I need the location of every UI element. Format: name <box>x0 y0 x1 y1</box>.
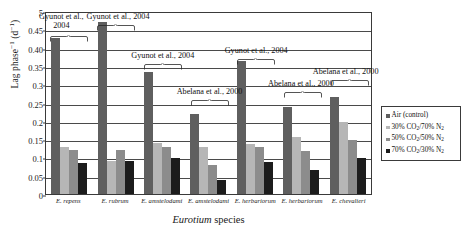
bars-layer <box>46 13 371 194</box>
bar[interactable] <box>125 161 134 194</box>
y-axis-tick-label: 0.1 <box>32 154 43 164</box>
x-axis-tick-label: E. amstelodami <box>138 197 185 204</box>
bar[interactable] <box>217 180 226 194</box>
legend-label: 50% CO2/50% N2 <box>392 134 444 144</box>
x-axis-tick-labels: E. repensE. rubrumE. amstelodamiE. amste… <box>45 197 372 204</box>
x-axis-tick-label: E. amstelodami <box>185 197 232 204</box>
bar-group <box>325 13 371 194</box>
bar[interactable] <box>190 114 199 194</box>
x-axis-tick-label: E. chevalieri <box>325 197 372 204</box>
bar-group <box>139 13 185 194</box>
y-axis-title-exp2: −1 <box>8 23 16 31</box>
bar[interactable] <box>237 61 246 194</box>
bar[interactable] <box>60 147 69 194</box>
bar[interactable] <box>107 161 116 194</box>
legend-swatch <box>386 126 390 130</box>
bar-group <box>185 13 231 194</box>
bar[interactable] <box>51 38 60 194</box>
bar[interactable] <box>69 150 78 194</box>
y-axis-title-exp1: −1 <box>8 41 16 49</box>
legend-swatch <box>386 149 390 153</box>
y-axis-tick-label: 0.3 <box>32 81 43 91</box>
bar-group <box>232 13 278 194</box>
bar[interactable] <box>301 151 310 194</box>
bar[interactable] <box>264 162 273 194</box>
y-axis-tick-label: 0.45 <box>28 26 43 36</box>
x-axis-tick-label: E. repens <box>45 197 92 204</box>
x-axis-tick-label: E. herbariorum <box>232 197 279 204</box>
x-axis-tick-label: E. herbariorum <box>279 197 326 204</box>
bar[interactable] <box>144 72 153 194</box>
y-axis-tick-label: 0.25 <box>28 100 43 110</box>
legend-item[interactable]: Air (control) <box>386 111 457 121</box>
legend-label: 30% CO2/70% N2 <box>392 123 444 133</box>
bar[interactable] <box>78 163 87 194</box>
y-axis-title-paren: ) <box>10 20 20 23</box>
x-axis-title-rest: species <box>212 214 245 225</box>
y-axis-title-text: Lag phase <box>10 49 20 89</box>
bar[interactable] <box>339 122 348 194</box>
x-axis-title: Eurotium species <box>45 214 372 225</box>
y-axis-title: Lag phase−1 (d−1) <box>8 0 20 114</box>
legend-swatch <box>386 114 390 118</box>
bar[interactable] <box>246 144 255 195</box>
y-axis-tick-label: 0.35 <box>28 63 43 73</box>
legend-item[interactable]: 70% CO2/30% N2 <box>386 146 457 156</box>
bar[interactable] <box>162 147 171 194</box>
bar[interactable] <box>171 158 180 194</box>
legend-swatch <box>386 138 390 142</box>
x-axis-tick-label: E. rubrum <box>92 197 139 204</box>
y-axis-title-units: (d <box>10 31 20 42</box>
y-axis-tick-label: 0.2 <box>32 118 43 128</box>
bar[interactable] <box>330 97 339 194</box>
plot-area: 00.050.10.150.20.250.30.350.400.455 Gyun… <box>45 12 372 195</box>
bar[interactable] <box>208 165 217 194</box>
bar[interactable] <box>310 170 319 194</box>
bar[interactable] <box>153 143 162 194</box>
legend: Air (control)30% CO2/70% N250% CO2/50% N… <box>381 106 461 161</box>
legend-label: Air (control) <box>392 111 429 121</box>
y-axis-tick-label: 0.15 <box>28 136 43 146</box>
y-axis-tick-label: 0.05 <box>28 173 43 183</box>
bar[interactable] <box>255 147 264 194</box>
x-axis-title-genus: Eurotium <box>172 214 211 225</box>
bar-group <box>278 13 324 194</box>
bar[interactable] <box>283 107 292 194</box>
legend-item[interactable]: 30% CO2/70% N2 <box>386 123 457 133</box>
legend-item[interactable]: 50% CO2/50% N2 <box>386 134 457 144</box>
y-axis-tick-label: 0.40 <box>28 45 43 55</box>
bar[interactable] <box>292 137 301 194</box>
bar[interactable] <box>98 22 107 194</box>
bar-group <box>92 13 138 194</box>
bar[interactable] <box>357 158 366 194</box>
bar[interactable] <box>348 140 357 194</box>
bar-chart-figure: Lag phase−1 (d−1) 00.050.10.150.20.250.3… <box>0 0 466 243</box>
bar[interactable] <box>199 147 208 194</box>
legend-label: 70% CO2/30% N2 <box>392 146 444 156</box>
bar[interactable] <box>116 150 125 194</box>
bar-group <box>46 13 92 194</box>
